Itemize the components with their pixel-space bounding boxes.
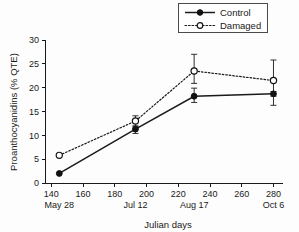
y-axis-tick-label: 0 <box>34 178 39 188</box>
y-axis-tick-label: 10 <box>29 131 39 141</box>
legend-swatch-dotted-open-circle <box>183 19 217 32</box>
x-axis-tick-label: 200 <box>139 189 154 199</box>
x-axis-date-label: May 28 <box>45 200 75 210</box>
y-axis-tick-label: 20 <box>29 83 39 93</box>
series-damaged <box>56 54 276 158</box>
x-axis-tick-label: 180 <box>107 189 122 199</box>
legend: Control Damaged <box>178 3 268 33</box>
x-axis-tick-label: 140 <box>44 189 59 199</box>
legend-item-control: Control <box>183 6 263 19</box>
x-axis-tick-label: 240 <box>202 189 217 199</box>
x-axis-title: Julian days <box>144 219 192 230</box>
x-axis-date-label: Jul 12 <box>123 200 147 210</box>
data-point-open-circle <box>56 152 62 158</box>
y-axis-tick-label: 15 <box>29 107 39 117</box>
x-axis-date-label: Oct 6 <box>263 200 285 210</box>
legend-swatch-solid-filled-circle <box>183 6 217 19</box>
data-point-open-circle <box>191 68 197 74</box>
chart-figure: 051015202530 140160180200220240260280May… <box>0 0 299 232</box>
y-axis-tick-label: 30 <box>29 35 39 45</box>
series-line <box>59 94 273 174</box>
legend-label-damaged: Damaged <box>217 19 261 32</box>
data-series-group <box>56 54 276 176</box>
x-axis: 140160180200220240260280May 28Jul 12Aug … <box>44 183 284 210</box>
y-axis-tick-label: 5 <box>34 154 39 164</box>
y-axis-tick-label: 25 <box>29 59 39 69</box>
x-axis-tick-label: 280 <box>266 189 281 199</box>
x-axis-date-label: Aug 17 <box>180 200 209 210</box>
legend-item-damaged: Damaged <box>183 19 263 32</box>
legend-label-control: Control <box>217 6 251 19</box>
series-line <box>59 71 273 155</box>
x-axis-tick-label: 160 <box>76 189 91 199</box>
series-control <box>56 88 276 176</box>
data-point-open-circle <box>132 118 138 124</box>
y-axis: 051015202530 <box>29 35 45 188</box>
x-axis-tick-label: 220 <box>171 189 186 199</box>
y-axis-title: Proanthocyanidins (% QTE) <box>8 53 19 171</box>
x-axis-tick-label: 260 <box>234 189 249 199</box>
data-point-filled-circle <box>56 171 62 177</box>
data-point-filled-circle <box>191 93 197 99</box>
data-point-open-circle <box>270 77 276 83</box>
line-chart-canvas: 051015202530 140160180200220240260280May… <box>0 0 299 232</box>
